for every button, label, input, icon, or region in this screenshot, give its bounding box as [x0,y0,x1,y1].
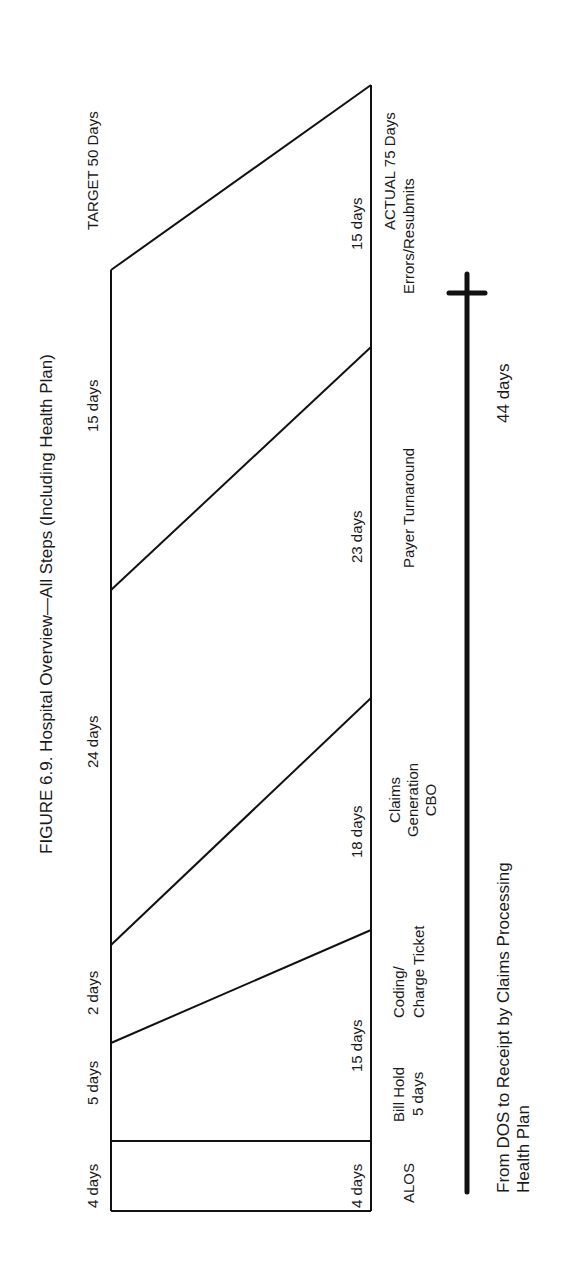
claims-divider [111,347,371,590]
timeline-caption-line2: Health Plan [514,1105,533,1193]
target-alos-days: 4 days [84,1164,101,1208]
actual-payer-days: 23 days [348,510,365,563]
process-shape [111,85,371,1211]
step-claims-line2: Generation [404,763,421,837]
errors-divider [111,85,371,270]
step-bill-hold-line2: 5 days [409,1072,426,1116]
target-coding-days: 2 days [84,971,101,1015]
step-coding: Coding/ Charge Ticket [390,925,427,1018]
actual-coding-days: 15 days [348,1019,365,1072]
actual-label: ACTUAL 75 Days [381,112,398,230]
timeline-days: 44 days [494,363,513,423]
target-bill-hold-days: 5 days [84,1061,101,1105]
actual-errors-days: 15 days [348,197,365,250]
step-payer-turnaround: Payer Turnaround [400,448,417,568]
coding-divider [111,698,371,945]
target-payer-days-text: 15 days [84,379,101,432]
step-claims-line3: CBO [422,784,439,817]
step-claims-generation: Claims Generation CBO [386,763,439,837]
timeline: 44 days From DOS to Receipt by Claims Pr… [449,274,533,1193]
step-errors-resubmits: Errors/Resubmits [400,178,417,294]
bill-hold-divider [111,930,371,1043]
step-coding-line1: Coding/ [390,965,407,1018]
figure-title: FIGURE 6.9. Hospital Overview—All Steps … [37,354,56,854]
step-bill-hold-line1: Bill Hold [390,1067,407,1122]
step-alos: ALOS [400,1163,417,1203]
target-label: TARGET 50 Days [84,111,101,230]
timeline-caption-line1: From DOS to Receipt by Claims Processing [494,862,513,1193]
actual-claims-days: 18 days [348,805,365,858]
target-claims-days: 24 days [84,715,101,768]
actual-alos-days: 4 days [348,1164,365,1208]
step-bill-hold: Bill Hold 5 days [390,1067,426,1122]
step-coding-line2: Charge Ticket [410,925,427,1018]
step-claims-line1: Claims [386,777,403,823]
diagram-canvas: FIGURE 6.9. Hospital Overview—All Steps … [0,0,571,1284]
